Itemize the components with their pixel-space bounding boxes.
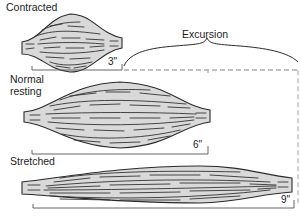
stretched-label: Stretched xyxy=(10,156,55,167)
stretched-muscle xyxy=(22,166,292,203)
contracted-muscle xyxy=(22,14,122,72)
normal-length-value: 6" xyxy=(193,140,202,150)
contracted-label: Contracted xyxy=(6,2,57,13)
excursion-label: Excursion xyxy=(182,29,228,40)
normal-label-line2: resting xyxy=(10,86,42,97)
stretched-length-value: 9" xyxy=(281,195,290,205)
muscle-excursion-diagram: Contracted 3" Excursion Normal resting 6… xyxy=(0,0,300,219)
contracted-length-value: 3" xyxy=(108,57,117,67)
excursion-brace xyxy=(124,38,298,66)
diagram-graphics xyxy=(0,0,300,219)
normal-label-line1: Normal xyxy=(10,74,44,85)
normal-muscle xyxy=(24,82,210,148)
